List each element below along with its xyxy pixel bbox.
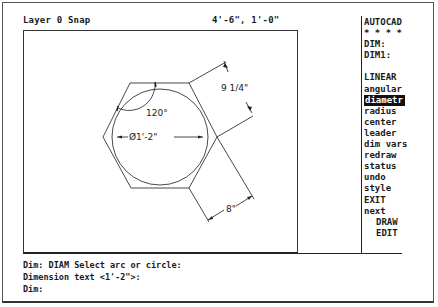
angle-dimension-arc (118, 84, 155, 110)
menu-item-undo[interactable]: undo (364, 172, 407, 183)
screen-menu: AUTOCAD * * * * DIM: DIM1: LINEAR angula… (364, 17, 407, 239)
command-line-2: Dimension text <1'-2">: (23, 271, 182, 283)
menu-item-center[interactable]: center (364, 117, 407, 128)
command-line-1: Dim: DIAM Select arc or circle: (23, 259, 182, 271)
menu-item-draw[interactable]: DRAW (364, 217, 407, 228)
menu-item-radius[interactable]: radius (364, 106, 407, 117)
menu-item-dim[interactable]: DIM: (364, 39, 407, 50)
bottom-dimension-label: 8" (226, 204, 236, 214)
menu-item-angular[interactable]: angular (364, 84, 407, 95)
menu-item-edit[interactable]: EDIT (364, 228, 407, 239)
menu-item-dim-vars[interactable]: dim vars (364, 139, 407, 150)
side-dimension-label: 9 1/4" (221, 83, 248, 93)
angle-label: 120° (146, 108, 168, 118)
menu-item-diametr-label: diametr (364, 95, 405, 106)
screen-menu-underline (298, 253, 402, 254)
menu-item-next[interactable]: next (364, 206, 407, 217)
menu-item-status[interactable]: status (364, 161, 407, 172)
menu-item-linear[interactable]: LINEAR (364, 72, 407, 83)
menu-item-leader[interactable]: leader (364, 128, 407, 139)
command-line-area[interactable]: Dim: DIAM Select arc or circle: Dimensio… (23, 259, 182, 295)
menu-item-exit[interactable]: EXIT (364, 195, 407, 206)
menu-item-redraw[interactable]: redraw (364, 150, 407, 161)
screen-menu-divider (361, 16, 362, 254)
menu-item-style[interactable]: style (364, 183, 407, 194)
menu-item-dim1[interactable]: DIM1: (364, 50, 407, 61)
menu-item-diametr[interactable]: diametr (364, 95, 407, 106)
command-prompt[interactable]: Dim: (23, 283, 182, 295)
menu-spacer (364, 61, 407, 72)
menu-header-autocad[interactable]: AUTOCAD (364, 17, 407, 28)
diameter-label: Ø1'-2" (129, 132, 157, 142)
menu-header-stars[interactable]: * * * * (364, 28, 407, 39)
